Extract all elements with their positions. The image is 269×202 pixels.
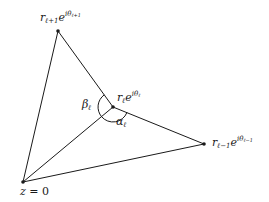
label-right-vertex: rℓ−1eiθℓ−1 <box>212 136 253 150</box>
label-middle-vertex: rℓeiθℓ <box>117 91 140 105</box>
label-angle-alpha: αℓ <box>116 116 126 129</box>
label-top-vertex: rℓ+1eiθℓ+1 <box>40 11 81 25</box>
label-angle-beta: βℓ <box>82 99 91 112</box>
point-top <box>56 29 60 33</box>
edge-right-origin <box>23 144 204 182</box>
point-origin <box>21 180 25 184</box>
edge-origin-middle <box>23 107 113 182</box>
point-middle <box>111 105 115 109</box>
point-right <box>202 142 206 146</box>
edge-top-middle <box>58 31 113 107</box>
label-origin: z = 0 <box>20 186 49 197</box>
angle-beta-arc <box>98 95 104 117</box>
edge-origin-top <box>23 31 58 182</box>
